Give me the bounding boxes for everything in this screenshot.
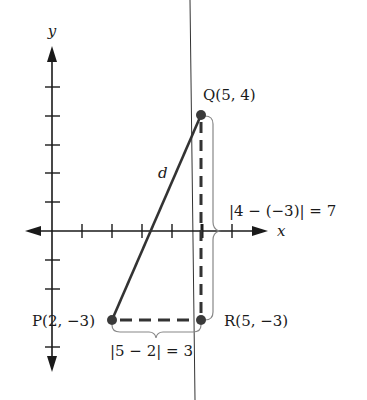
- distance-segment-d: [112, 115, 201, 320]
- overlay-vertical-line: [190, 0, 195, 400]
- x-axis-right-arrow-icon: [252, 226, 268, 236]
- y-axis-label: y: [47, 22, 57, 40]
- horizontal-distance-brace: [112, 325, 201, 338]
- horizontal-distance-label: |5 − 2| = 3: [110, 342, 193, 360]
- vertical-distance-label: |4 − (−3)| = 7: [229, 202, 336, 220]
- point-R: [196, 315, 206, 325]
- x-axis-left-arrow-icon: [25, 226, 41, 236]
- point-P: [107, 315, 117, 325]
- distance-diagram: y x d Q(5, 4) P(2, −3) R(5, −3) |4 − (−3…: [0, 0, 367, 400]
- x-axis: x: [25, 222, 286, 240]
- point-label-Q: Q(5, 4): [203, 86, 256, 104]
- point-label-R: R(5, −3): [224, 312, 288, 330]
- point-Q: [196, 110, 206, 120]
- distance-label-d: d: [158, 164, 168, 182]
- x-axis-label: x: [277, 222, 286, 240]
- point-label-P: P(2, −3): [32, 312, 95, 330]
- y-axis-down-arrow-icon: [47, 356, 57, 372]
- vertical-distance-brace: [205, 116, 219, 320]
- y-axis-up-arrow-icon: [47, 46, 57, 62]
